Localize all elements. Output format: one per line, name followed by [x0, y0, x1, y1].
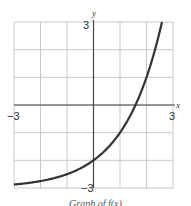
y-axis-label: y	[91, 8, 96, 18]
y-max-tick-label: 3	[83, 19, 89, 31]
chart-caption: Graph of f(x)	[0, 198, 191, 206]
x-axis-label: x	[175, 100, 180, 110]
x-min-tick-label: −3	[7, 110, 20, 122]
chart: −3 3 3 −3 x y	[0, 0, 191, 206]
axes	[14, 20, 175, 188]
y-min-tick-label: −3	[81, 182, 94, 194]
x-max-tick-label: 3	[169, 110, 175, 122]
